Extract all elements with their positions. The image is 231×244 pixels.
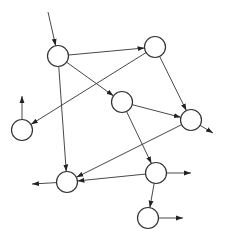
directed-graph-diagram <box>0 0 231 244</box>
node-n8 <box>138 208 159 229</box>
edge-n6-to-out <box>32 183 57 184</box>
node-n6 <box>57 172 78 193</box>
edge-n4-to-out <box>200 125 213 133</box>
edge-n3-to-n7 <box>127 111 152 163</box>
node-n2 <box>145 37 166 58</box>
node-n7 <box>146 163 167 184</box>
node-n1 <box>48 46 69 67</box>
node-n4 <box>181 110 202 131</box>
edge-n2-to-n4 <box>160 56 187 110</box>
node-n5 <box>12 120 33 141</box>
edge-n2-to-n5 <box>31 53 146 125</box>
edge-n1-to-n6 <box>59 66 67 171</box>
edge-in-to-n1 <box>48 12 56 46</box>
node-n3 <box>112 92 133 113</box>
nodes-layer <box>12 37 202 229</box>
edge-n3-to-n4 <box>132 105 181 118</box>
edge-n1-to-n3 <box>67 62 114 96</box>
edge-n7-to-n6 <box>77 174 145 181</box>
edge-n1-to-n2 <box>68 48 144 55</box>
edge-n7-to-n8 <box>150 183 154 207</box>
